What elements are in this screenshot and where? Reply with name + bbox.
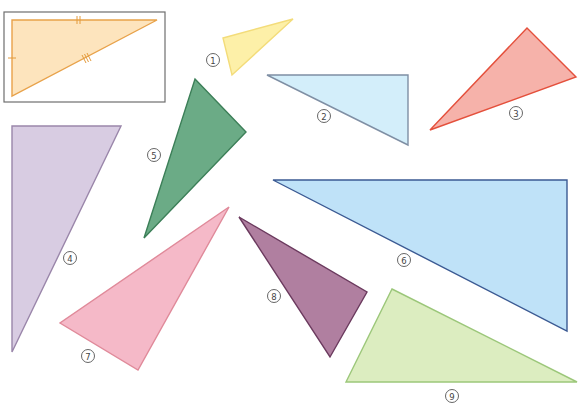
triangle-label-2: 2 xyxy=(318,110,331,123)
triangle-label-3: 3 xyxy=(510,107,523,120)
label-number: 2 xyxy=(321,112,326,122)
reference-box xyxy=(4,12,165,102)
label-number: 6 xyxy=(401,256,406,266)
triangle-label-1: 1 xyxy=(207,54,220,67)
triangle-label-5: 5 xyxy=(148,149,161,162)
label-number: 4 xyxy=(67,254,72,264)
triangle-1 xyxy=(223,19,293,75)
triangle-label-7: 7 xyxy=(82,350,95,363)
label-number: 9 xyxy=(449,392,454,402)
triangles-diagram: 123456789 xyxy=(0,0,584,410)
label-number: 5 xyxy=(151,151,156,161)
label-number: 3 xyxy=(513,109,518,119)
triangle-label-8: 8 xyxy=(268,290,281,303)
triangle-2 xyxy=(267,75,408,145)
triangle-7 xyxy=(60,207,229,370)
triangle-3 xyxy=(430,28,576,130)
triangle-label-6: 6 xyxy=(398,254,411,267)
triangle-label-9: 9 xyxy=(446,390,459,403)
triangle-label-4: 4 xyxy=(64,252,77,265)
triangle-8 xyxy=(239,217,367,357)
label-number: 8 xyxy=(271,292,276,302)
label-number: 7 xyxy=(85,352,90,362)
label-number: 1 xyxy=(210,56,215,66)
